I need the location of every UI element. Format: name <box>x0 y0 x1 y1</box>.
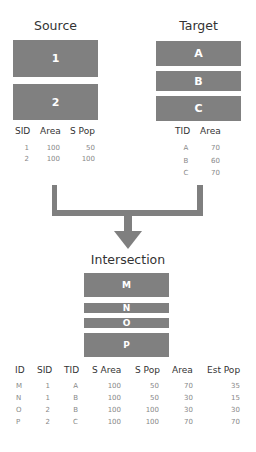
source-header-sid: SID <box>15 126 30 136</box>
intersection-polygon-o: O <box>84 318 169 328</box>
intersection-polygon-m: M <box>84 273 169 297</box>
target-title: Target <box>156 18 241 33</box>
arrow-down-icon <box>114 231 142 249</box>
header-sid: SID <box>37 365 52 375</box>
target-header-tid: TID <box>175 126 190 136</box>
target-polygon-a: A <box>156 41 241 66</box>
target-polygon-b: B <box>156 71 241 91</box>
header-id: ID <box>15 365 25 375</box>
intersection-polygon-n: N <box>84 303 169 313</box>
header-s-pop: S Pop <box>135 365 160 375</box>
source-polygon-2: 2 <box>13 84 98 120</box>
target-header-area: Area <box>200 126 221 136</box>
source-header-area: Area <box>40 126 61 136</box>
header-est-pop: Est Pop <box>207 365 240 375</box>
source-polygon-1: 1 <box>13 40 98 77</box>
intersection-polygon-p: P <box>84 333 169 357</box>
header-tid: TID <box>64 365 79 375</box>
header-area: Area <box>172 365 193 375</box>
source-title: Source <box>13 18 98 33</box>
intersection-title: Intersection <box>70 252 186 267</box>
target-polygon-c: C <box>156 96 241 121</box>
source-header-spop: S Pop <box>70 126 95 136</box>
header-s-area: S Area <box>92 365 121 375</box>
